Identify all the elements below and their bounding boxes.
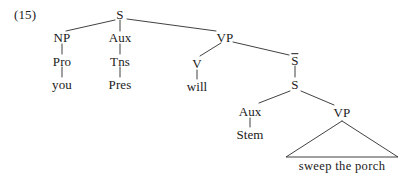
syntax-tree-figure: (15) S NP Pro you Aux Tns Pres VP V will…: [0, 0, 402, 176]
branch-vp-sbar: [233, 42, 289, 55]
terminal-triangle: [286, 121, 398, 157]
node-s-bar-text: S: [291, 53, 298, 68]
node-stem: Stem: [236, 128, 263, 141]
node-tns: Tns: [110, 55, 130, 68]
branch-s-vp-lower: [301, 91, 334, 105]
node-aux-lower: Aux: [239, 105, 262, 118]
node-s-embedded: S: [291, 78, 298, 91]
node-terminal-phrase: sweep the porch: [299, 160, 385, 173]
example-number-label: (15): [14, 8, 36, 21]
node-terminal-you: you: [52, 78, 72, 91]
node-vp-top: VP: [217, 31, 234, 44]
branch-s-aux-lower: [259, 91, 290, 103]
node-v: V: [192, 57, 202, 70]
node-aux-top: Aux: [109, 31, 132, 44]
node-s-bar: S: [291, 52, 298, 68]
node-terminal-will: will: [187, 80, 208, 93]
node-terminal-pres: Pres: [109, 78, 132, 91]
branch-s-np: [66, 20, 115, 31]
branch-vp-v: [200, 43, 221, 56]
node-np: NP: [54, 31, 71, 44]
node-pro: Pro: [53, 55, 71, 68]
branch-s-vp: [127, 19, 216, 31]
node-root-s: S: [116, 8, 123, 21]
node-vp-lower: VP: [334, 106, 351, 119]
